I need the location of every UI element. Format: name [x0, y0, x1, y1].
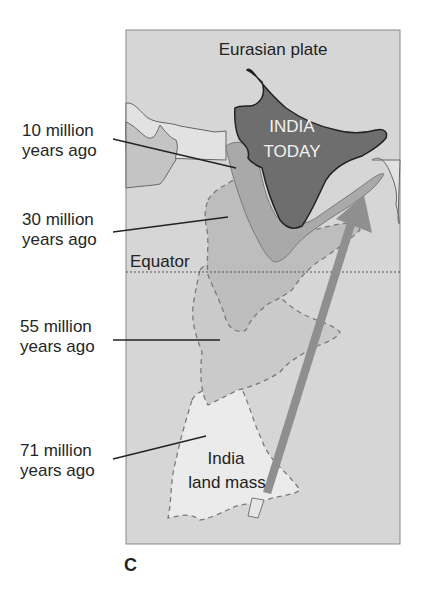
label-30-line1: 30 million: [22, 210, 97, 230]
plate-label: Eurasian plate: [219, 40, 328, 59]
landmass-label-2: land mass: [188, 473, 265, 492]
label-71-line1: 71 million: [20, 441, 95, 461]
india-drift-map: Eurasian plate INDIA TODAY Equator India…: [0, 0, 421, 607]
label-30-line2: years ago: [22, 230, 97, 250]
label-10-line2: years ago: [22, 141, 97, 161]
label-55-million: 55 million years ago: [20, 317, 95, 357]
landmass-label-1: India: [208, 449, 245, 468]
equator-label: Equator: [130, 252, 190, 271]
panel-letter: C: [124, 555, 137, 576]
label-30-million: 30 million years ago: [22, 210, 97, 250]
label-10-line1: 10 million: [22, 121, 97, 141]
india-today-label-2: TODAY: [264, 142, 321, 161]
label-71-million: 71 million years ago: [20, 441, 95, 481]
label-55-line1: 55 million: [20, 317, 95, 337]
label-55-line2: years ago: [20, 337, 95, 357]
label-71-line2: years ago: [20, 461, 95, 481]
label-10-million: 10 million years ago: [22, 121, 97, 161]
india-today-label-1: INDIA: [269, 117, 315, 136]
